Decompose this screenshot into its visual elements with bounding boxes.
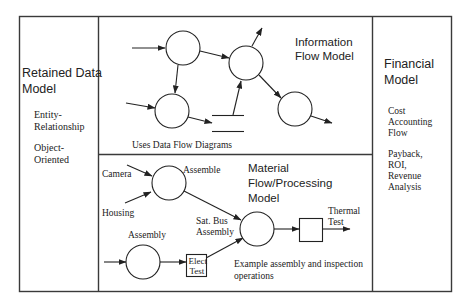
flow-p2-store (188, 117, 212, 123)
process-circle-1 (166, 31, 200, 65)
flow-in-2 (126, 103, 155, 108)
assembly-label: Assembly (128, 230, 166, 240)
financial-title-2: Model (384, 73, 418, 87)
material-caption-2: operations (234, 271, 274, 281)
entity-relationship-1: Entity- (34, 109, 62, 120)
financial-title-1: Financial (384, 57, 434, 71)
flow-p3-p4 (259, 75, 281, 98)
flow-elect-satbus (206, 238, 243, 258)
cost-accounting-1: Cost (388, 106, 406, 116)
material-flow-title-1: Material (248, 162, 289, 174)
cost-accounting-3: Flow (388, 128, 408, 138)
assembly-circle (126, 245, 160, 279)
cost-accounting-2: Accounting (388, 117, 433, 127)
process-circle-2 (155, 94, 189, 128)
thermal-label-2: Test (328, 217, 344, 227)
sat-bus-label-2: Assembly (196, 227, 234, 237)
payback-4: Analysis (388, 182, 422, 192)
retained-data-panel: Retained Data Model Entity- Relationship… (22, 66, 102, 165)
material-caption-1: Example assembly and inspection (234, 259, 363, 269)
flow-p1-p2 (175, 65, 178, 93)
retained-data-title-1: Retained Data (22, 66, 102, 80)
thermal-test-box (300, 219, 323, 242)
sat-bus-label-1: Sat. Bus (196, 216, 228, 226)
elect-label-1: Elect (189, 256, 208, 266)
payback-1: Payback, (388, 149, 423, 159)
process-circle-3 (229, 46, 263, 80)
material-flow-title-3: Model (248, 192, 279, 204)
payback-3: Revenue (388, 171, 421, 181)
flow-p4-out (311, 116, 332, 123)
camera-label: Camera (102, 169, 132, 179)
object-oriented-2: Oriented (34, 154, 69, 165)
info-flow-title-2: Flow Model (295, 50, 354, 62)
elect-label-2: Test (190, 266, 205, 276)
housing-label: Housing (102, 208, 134, 218)
assemble-label: Assemble (183, 165, 220, 175)
information-flow-panel: Information Flow Model Uses Data Flow Di… (126, 28, 354, 150)
payback-2: ROI, (388, 160, 407, 170)
flow-p3-out (252, 28, 262, 46)
material-flow-title-2: Flow/Processing (248, 177, 332, 189)
info-flow-caption: Uses Data Flow Diagrams (132, 140, 232, 150)
financial-panel: Financial Model Cost Accounting Flow Pay… (384, 57, 434, 192)
flow-housing (125, 192, 151, 203)
object-oriented-1: Object- (34, 142, 64, 153)
modeling-framework-diagram: Retained Data Model Entity- Relationship… (0, 0, 472, 305)
process-circle-4 (278, 92, 312, 126)
info-flow-title-1: Information (295, 36, 353, 48)
flow-store-p3 (233, 81, 241, 115)
retained-data-title-2: Model (22, 82, 56, 96)
material-flow-panel: Camera Housing Assemble Assembly Sat. Bu… (102, 162, 363, 281)
flow-p1-p3 (200, 51, 229, 58)
assemble-circle (152, 166, 186, 200)
entity-relationship-2: Relationship (34, 121, 85, 132)
thermal-label-1: Thermal (328, 206, 361, 216)
sat-bus-assembly-circle (240, 212, 274, 246)
